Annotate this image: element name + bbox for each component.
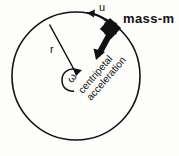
mass-label: mass-m [123,12,175,25]
radius-label: r [50,44,54,55]
circular-motion-diagram: u mass-m r ω centripetal acceleration [0,0,179,156]
tangential-velocity-label: u [99,2,105,13]
